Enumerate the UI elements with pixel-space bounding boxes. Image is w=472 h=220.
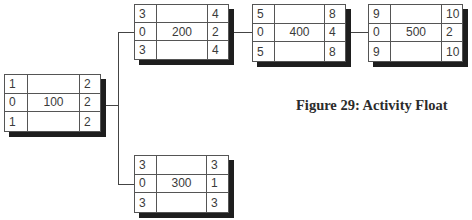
activity-node-100: 1 2 0 100 2 1 2	[4, 74, 101, 132]
activity-id: 200	[157, 23, 208, 41]
blank-cell	[391, 5, 442, 24]
activity-id: 300	[157, 175, 207, 194]
late-start: 3	[135, 41, 157, 59]
float: 0	[135, 23, 157, 41]
node-grid: 1 2 0 100 2 1 2	[4, 74, 101, 132]
duration: 2	[442, 24, 462, 43]
blank-cell	[275, 42, 325, 61]
node-grid: 3 4 0 200 2 3 4	[134, 4, 229, 60]
early-finish: 10	[442, 5, 462, 24]
early-finish: 8	[325, 5, 345, 24]
activity-id: 500	[391, 24, 442, 43]
early-finish: 2	[80, 75, 100, 94]
edge-200-400	[233, 32, 252, 33]
duration: 1	[207, 175, 228, 194]
activity-node-400: 5 8 0 400 4 5 8	[252, 4, 346, 62]
float: 0	[369, 24, 391, 43]
blank-cell	[157, 193, 207, 212]
edge-100-stub	[105, 105, 119, 106]
early-start: 3	[135, 5, 157, 23]
late-finish: 4	[208, 41, 228, 59]
duration: 2	[80, 94, 100, 113]
late-finish: 2	[80, 112, 100, 131]
late-start: 9	[369, 42, 391, 61]
float: 0	[5, 94, 28, 113]
node-grid: 3 3 0 300 1 3 3	[134, 155, 229, 213]
late-start: 5	[253, 42, 275, 61]
edge-400-500	[350, 32, 368, 33]
early-finish: 4	[208, 5, 228, 23]
activity-id: 100	[28, 94, 80, 113]
late-finish: 8	[325, 42, 345, 61]
early-start: 1	[5, 75, 28, 94]
float: 0	[253, 24, 275, 43]
early-finish: 3	[207, 156, 228, 175]
figure-caption: Figure 29: Activity Float	[296, 97, 448, 114]
late-finish: 3	[207, 193, 228, 212]
activity-node-500: 9 10 0 500 2 9 10	[368, 4, 463, 62]
early-start: 3	[135, 156, 157, 175]
float: 0	[135, 175, 157, 194]
late-finish: 10	[442, 42, 462, 61]
node-grid: 9 10 0 500 2 9 10	[368, 4, 463, 62]
duration: 2	[208, 23, 228, 41]
edge-100-200	[118, 32, 134, 33]
activity-node-300: 3 3 0 300 1 3 3	[134, 155, 229, 213]
edge-100-trunk	[118, 32, 119, 185]
activity-id: 400	[275, 24, 325, 43]
blank-cell	[28, 112, 80, 131]
activity-node-200: 3 4 0 200 2 3 4	[134, 4, 229, 60]
duration: 4	[325, 24, 345, 43]
blank-cell	[157, 41, 208, 59]
blank-cell	[157, 156, 207, 175]
blank-cell	[157, 5, 208, 23]
blank-cell	[391, 42, 442, 61]
blank-cell	[275, 5, 325, 24]
early-start: 9	[369, 5, 391, 24]
node-grid: 5 8 0 400 4 5 8	[252, 4, 346, 62]
early-start: 5	[253, 5, 275, 24]
late-start: 3	[135, 193, 157, 212]
blank-cell	[28, 75, 80, 94]
edge-100-300	[118, 184, 134, 185]
late-start: 1	[5, 112, 28, 131]
